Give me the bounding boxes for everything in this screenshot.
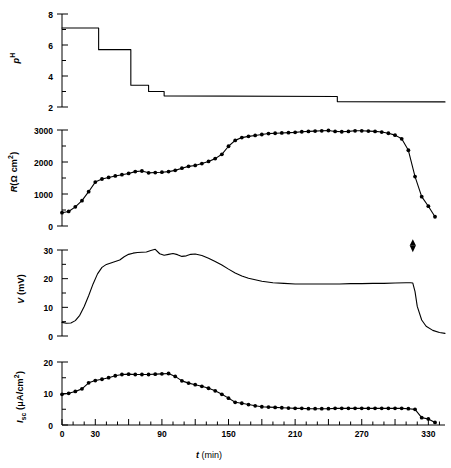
data-point (200, 384, 204, 388)
data-point (300, 130, 304, 134)
current-axis-label-rest: (μA/cm (15, 378, 25, 412)
data-point (400, 406, 404, 410)
data-point (67, 210, 71, 214)
data-point (367, 406, 371, 410)
data-point (413, 407, 417, 411)
data-point (153, 372, 157, 376)
resistance-ytick-0: 0 (48, 222, 53, 232)
resistance-ytick-3000: 3000 (34, 126, 53, 136)
data-point (100, 377, 104, 381)
voltage-ytick-10: 10 (44, 303, 54, 313)
data-point (247, 403, 251, 407)
data-point (240, 136, 244, 140)
current-axis-label-italic: I (15, 420, 25, 423)
data-point (360, 129, 364, 133)
current-x-tick-labels: 03090150210270330 (60, 429, 436, 439)
ph-panel: pH 8 6 4 2 (0, 0, 451, 118)
data-point (327, 129, 331, 133)
voltage-ytick-0: 0 (48, 332, 53, 342)
data-point (87, 381, 91, 385)
resistance-ytick-2000: 2000 (34, 158, 53, 168)
data-point (293, 406, 297, 410)
data-point (87, 190, 91, 194)
voltage-event-double-arrow-icon (410, 239, 416, 252)
data-point (233, 138, 237, 142)
data-point (180, 379, 184, 383)
data-point (73, 205, 77, 209)
data-point (267, 405, 271, 409)
x-tick-label: 330 (421, 429, 435, 439)
data-point (253, 134, 257, 138)
data-point (300, 406, 304, 410)
x-tick-label: 150 (221, 429, 235, 439)
resistance-ytick-1000: 1000 (34, 190, 53, 200)
data-point (307, 407, 311, 411)
ph-y-axis: 8 6 4 2 (48, 10, 68, 113)
data-point (60, 392, 64, 396)
data-point (233, 400, 237, 404)
data-point (420, 416, 424, 420)
current-x-ticks (62, 419, 439, 425)
current-axis-label: Isc (μA/cm2) (13, 371, 27, 423)
data-point (320, 407, 324, 411)
data-point (133, 170, 137, 174)
data-point (267, 132, 271, 136)
data-point (406, 148, 410, 152)
ph-ytick-2: 2 (48, 103, 53, 113)
resistance-axis-label-rest: (Ω cm (9, 159, 19, 186)
resistance-axis-label-superscript: 2 (7, 155, 14, 159)
data-point (220, 392, 224, 396)
data-point (93, 180, 97, 184)
x-tick-label: 270 (355, 429, 369, 439)
data-point (173, 168, 177, 172)
data-point (340, 406, 344, 410)
data-point (173, 375, 177, 379)
data-point (120, 373, 124, 377)
arrow-up-icon (410, 239, 416, 245)
data-point (200, 162, 204, 166)
data-point (107, 376, 111, 380)
current-ytick-10: 10 (44, 389, 54, 399)
data-point (260, 405, 264, 409)
resistance-data-markers (60, 129, 437, 219)
current-axis-label-close: ) (15, 371, 25, 374)
voltage-panel: V (mV) 30 20 10 0 (0, 236, 451, 348)
data-point (406, 407, 410, 411)
data-point (333, 406, 337, 410)
data-point (100, 177, 104, 181)
data-point (67, 391, 71, 395)
voltage-y-axis: 30 20 10 0 (44, 246, 68, 342)
ph-step-trace (62, 28, 445, 102)
data-point (147, 373, 151, 377)
data-point (227, 144, 231, 148)
data-point (320, 129, 324, 133)
data-point (353, 406, 357, 410)
data-point (213, 389, 217, 393)
data-point (426, 204, 430, 208)
data-point (140, 169, 144, 173)
data-point (207, 160, 211, 164)
current-ytick-20: 20 (44, 358, 54, 368)
data-point (373, 130, 377, 134)
data-point (367, 129, 371, 133)
data-point (413, 175, 417, 179)
data-point (127, 372, 131, 376)
data-point (313, 129, 317, 133)
data-point (293, 130, 297, 134)
data-point (127, 172, 131, 176)
ph-axis-label: pH (9, 53, 21, 64)
data-point (353, 129, 357, 133)
data-point (273, 406, 277, 410)
time-axis-label-unit: (min) (199, 450, 222, 460)
current-plot-svg: 20 10 0 03090150210270330 (0, 352, 451, 442)
current-axis-label-superscript: 2 (13, 374, 20, 378)
voltage-ytick-30: 30 (44, 246, 54, 256)
ph-ytick-8: 8 (48, 10, 53, 20)
ph-ytick-6: 6 (48, 41, 53, 51)
ph-axis-label-italic: p (11, 58, 21, 64)
voltage-axis-label-rest: (mV) (16, 274, 26, 298)
data-point (386, 406, 390, 410)
data-point (347, 130, 351, 134)
data-point (160, 170, 164, 174)
data-point (327, 407, 331, 411)
